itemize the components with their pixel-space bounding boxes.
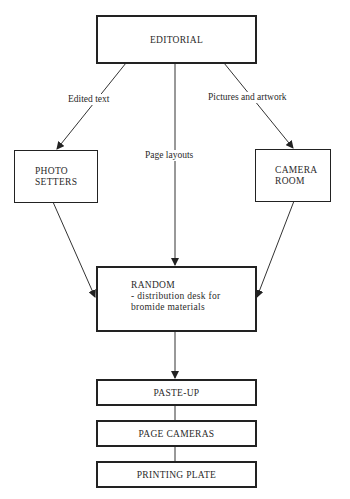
node-random-title: RANDOM [131,280,221,291]
node-printing-plate-label: PRINTING PLATE [137,470,216,480]
node-editorial: EDITORIAL [96,15,257,64]
node-random-desc-line1: - distribution desk for [131,291,221,302]
edge-photosetters-random [53,202,95,297]
node-camera-room-line2: ROOM [275,176,317,187]
edge-editorial-photosetters [57,63,126,149]
edge-label-edited-text: Edited text [68,94,109,105]
node-random: RANDOM - distribution desk for bromide m… [96,266,257,332]
node-page-cameras-label: PAGE CAMERAS [139,429,215,439]
node-paste-up: PASTE-UP [96,379,257,406]
node-photo-setters: PHOTO SETTERS [14,150,98,203]
node-printing-plate: PRINTING PLATE [96,461,257,488]
node-camera-room-line1: CAMERA [275,165,317,176]
node-photo-setters-line1: PHOTO [35,166,77,177]
node-random-desc-line2: bromide materials [131,302,221,313]
edge-editorial-cameraroom [224,63,293,148]
edge-label-page-layouts: Page layouts [145,150,193,161]
node-camera-room: CAMERA ROOM [255,149,331,202]
edge-label-pictures-and-artwork: Pictures and artwork [208,92,287,103]
edge-cameraroom-random [257,201,294,297]
node-page-cameras: PAGE CAMERAS [96,420,257,447]
node-paste-up-label: PASTE-UP [154,388,200,398]
node-photo-setters-line2: SETTERS [35,177,77,188]
node-editorial-label: EDITORIAL [150,35,203,45]
